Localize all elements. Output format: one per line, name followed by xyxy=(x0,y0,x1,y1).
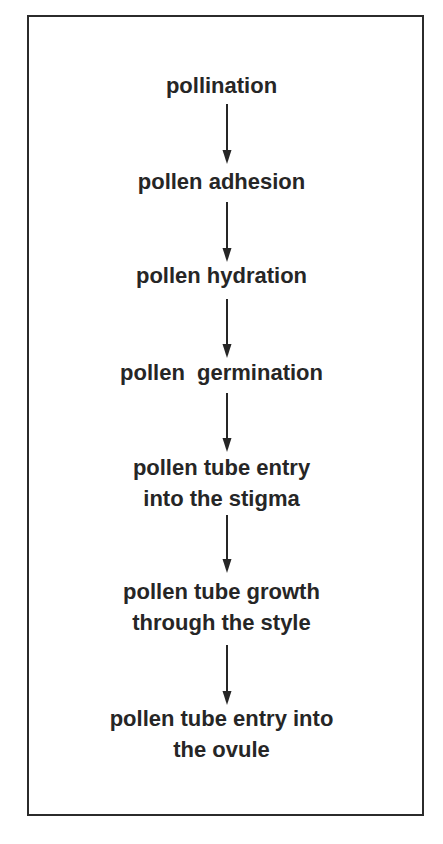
step-pollination: pollination xyxy=(0,70,443,101)
step-pollen-germination: pollen germination xyxy=(0,357,443,388)
arrow-down-icon xyxy=(220,393,234,452)
arrow-down-icon xyxy=(220,299,234,358)
step-pollen-tube-growth-style: pollen tube growth through the style xyxy=(0,576,443,638)
step-pollen-adhesion: pollen adhesion xyxy=(0,166,443,197)
arrow-down-icon xyxy=(220,645,234,705)
arrow-down-icon xyxy=(220,104,234,164)
step-pollen-hydration: pollen hydration xyxy=(0,260,443,291)
step-pollen-tube-entry-ovule: pollen tube entry into the ovule xyxy=(0,703,443,765)
arrow-down-icon xyxy=(220,515,234,573)
step-pollen-tube-entry-stigma: pollen tube entry into the stigma xyxy=(0,452,443,514)
arrow-down-icon xyxy=(220,202,234,262)
